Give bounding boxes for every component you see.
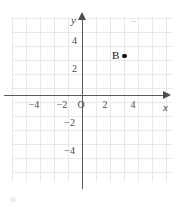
y-tick-label-2: 2: [59, 64, 77, 74]
x-axis-label: x: [163, 102, 168, 113]
scan-artifact-tick: [131, 21, 136, 22]
y-axis-arrow-icon: [78, 12, 86, 20]
point-b-marker: [122, 54, 127, 59]
x-tick-label-minus4: −4: [25, 100, 43, 110]
x-axis-arrow-icon: [163, 91, 171, 99]
x-tick-label-2: 2: [96, 100, 114, 110]
origin-label: O: [72, 100, 90, 110]
y-tick-label-4: 4: [59, 36, 77, 46]
point-b-label: B: [112, 50, 119, 61]
y-axis-label: y: [71, 15, 76, 26]
y-tick-label-minus2: −2: [57, 118, 75, 128]
x-tick-label-minus2: −2: [53, 100, 71, 110]
x-tick-label-4: 4: [124, 100, 142, 110]
coordinate-plane-figure: −4 −2 O 2 4 4 2 −2 −4 x y B: [0, 0, 180, 207]
y-tick-label-minus4: −4: [57, 146, 75, 156]
x-axis-line: [4, 95, 168, 96]
scan-artifact-corner: [10, 197, 16, 202]
